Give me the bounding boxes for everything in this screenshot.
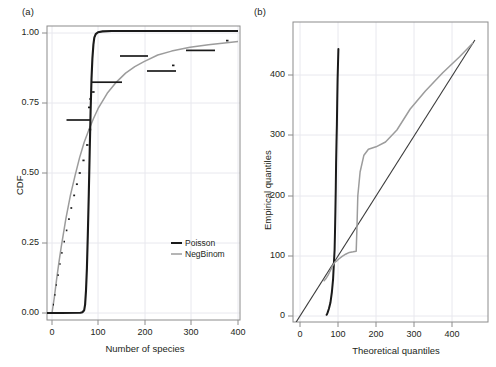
panel-b-frame — [293, 22, 488, 322]
panel-a-tick-marks — [42, 33, 238, 325]
panel-b-xtick-200: 200 — [356, 329, 396, 339]
reference-line-identity — [289, 40, 475, 334]
panel-a-ytick-100: 1.00 — [5, 27, 39, 37]
panel-a-xtick-100: 100 — [78, 327, 118, 337]
panel-b-xtick-0: 0 — [280, 329, 320, 339]
panel-b-ytick-400: 400 — [251, 69, 285, 79]
legend-item-poisson: Poisson — [185, 238, 215, 248]
panel-b-xtick-400: 400 — [432, 329, 472, 339]
panel-a-xtick-0: 0 — [32, 327, 72, 337]
panel-b-xtick-300: 300 — [394, 329, 434, 339]
panel-b-tick-marks — [288, 75, 452, 327]
panel-a: (a) — [0, 0, 248, 367]
panel-b-ytick-100: 100 — [251, 250, 285, 260]
panel-a-ytick-075: 0.75 — [5, 97, 39, 107]
panel-b-gridlines — [293, 22, 488, 322]
panel-b-ytick-300: 300 — [251, 129, 285, 139]
legend-item-negbinom: NegBinom — [185, 249, 225, 259]
panel-b: (b) — [248, 0, 496, 367]
panel-b-xtick-100: 100 — [318, 329, 358, 339]
panel-a-ylabel: CDF — [14, 175, 25, 195]
panel-b-plot — [248, 0, 496, 367]
panel-a-ytick-025: 0.25 — [5, 237, 39, 247]
panel-a-xtick-200: 200 — [125, 327, 165, 337]
panel-b-ylabel: Empirical quantiles — [262, 150, 273, 230]
panel-a-ytick-000: 0.00 — [5, 307, 39, 317]
panel-a-xlabel: Number of species — [95, 343, 195, 354]
panel-b-xlabel: Theoretical quantiles — [341, 345, 451, 356]
panel-a-legend — [171, 243, 182, 254]
panel-a-xtick-300: 300 — [171, 327, 211, 337]
panel-b-ytick-0: 0 — [251, 310, 285, 320]
